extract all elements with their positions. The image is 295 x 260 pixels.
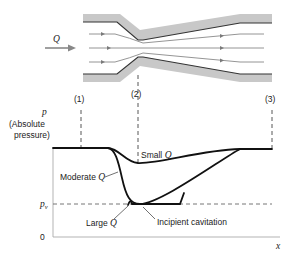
streamlines <box>89 32 264 64</box>
pipe-top-wall <box>83 14 272 40</box>
streamline-bottom <box>89 53 264 62</box>
curve-small-q <box>108 148 272 163</box>
pipe-bottom-wall <box>83 57 272 82</box>
streamline-arrow-icon <box>101 60 105 64</box>
streamline-arrow-icon <box>220 46 224 50</box>
vapor-pressure-label: pv <box>39 199 48 210</box>
y-axis-label-line2: pressure) <box>14 130 50 140</box>
venturi-diagram: Q (1) (2) (3) p (Absolute pressure) x 0 … <box>0 0 295 260</box>
streamline-arrow-icon <box>107 46 111 50</box>
label-small-q: Small Q <box>141 150 172 160</box>
streamline-arrow-icon <box>220 59 224 63</box>
curve-moderate-q <box>108 148 240 204</box>
flow-arrow-head-icon <box>68 45 76 52</box>
leader-moderate-q <box>105 172 118 177</box>
streamline-arrow-icon <box>101 32 105 36</box>
label-incipient-cavitation: Incipient cavitation <box>157 217 227 227</box>
label-moderate-q: Moderate Q <box>60 172 105 182</box>
leader-incipient <box>143 207 155 219</box>
y-axis-symbol: p <box>41 107 47 117</box>
leader-large-q <box>114 206 128 219</box>
section-label-1: (1) <box>74 94 85 104</box>
streamline-arrow-icon <box>220 34 224 38</box>
section-label-2: (2) <box>131 89 142 99</box>
x-axis-label: x <box>275 241 281 251</box>
section-label-3: (3) <box>265 94 276 104</box>
y-axis-label-line1: (Absolute <box>9 119 45 129</box>
streamline-top <box>89 34 264 43</box>
flow-arrow: Q <box>45 34 76 52</box>
flow-label: Q <box>53 34 60 44</box>
origin-label: 0 <box>40 232 45 242</box>
label-large-q: Large Q <box>86 218 117 228</box>
